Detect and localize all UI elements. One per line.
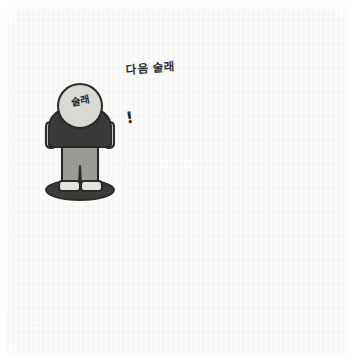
illustration-canvas: .ol{stroke:#2b2b2b;stroke-width:2.1;stro… [0,0,356,362]
next-tagger-caption: 다음 술래 [126,57,176,76]
figures-artwork: .ol{stroke:#2b2b2b;stroke-width:2.1;stro… [0,0,356,362]
